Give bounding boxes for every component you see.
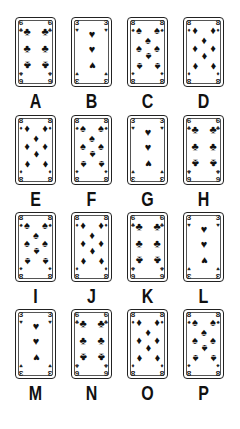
diamonds-pip-icon: ♦	[78, 256, 89, 267]
playing-card[interactable]: 8♦8♦8♦8♦♦♦♦♦♦♦♦♦	[15, 115, 56, 185]
card-label: B	[75, 90, 108, 112]
playing-card[interactable]: 6♣6♣6♣6♣♣♣♣♣♣♣	[127, 212, 168, 282]
card-rank: 3	[48, 310, 52, 319]
card-index-br: 8♦	[102, 266, 110, 280]
card-index-br: 3♥	[214, 266, 222, 280]
hearts-icon: ♥	[102, 27, 110, 33]
hearts-pip-icon: ♥	[31, 336, 42, 347]
card-index-br: 8♠	[46, 266, 54, 280]
hearts-icon: ♥	[102, 71, 110, 77]
card-index-br: 8♦	[46, 169, 54, 183]
playing-card[interactable]: 3♥3♥3♥3♥♥♥♥	[71, 17, 112, 87]
card-label: J	[75, 285, 108, 307]
spades-pip-icon: ♠	[152, 61, 163, 72]
card-index-bl: 8♦	[73, 266, 81, 280]
card-index-br: 3♥	[158, 169, 166, 183]
clubs-pip-icon: ♣	[190, 124, 201, 135]
card-cell-n: 6♣6♣6♣6♣♣♣♣♣♣♣N	[56, 309, 112, 407]
card-rank: 8	[131, 77, 135, 86]
hearts-icon: ♥	[158, 169, 166, 175]
card-label: A	[19, 90, 52, 112]
card-label: D	[187, 90, 220, 112]
clubs-pip-icon: ♣	[208, 124, 219, 135]
card-rank: 3	[160, 116, 164, 125]
card-cell-e: 8♦8♦8♦8♦♦♦♦♦♦♦♦♦E	[0, 115, 56, 213]
card-index-br: 8♠	[214, 363, 222, 377]
card-cell-k: 6♣6♣6♣6♣♣♣♣♣♣♣K	[112, 212, 168, 310]
playing-card[interactable]: 8♠8♠8♠8♠♠♠♠♠♠♠♠♠	[15, 212, 56, 282]
card-cell-j: 8♦8♦8♦8♦♦♦♦♦♦♦♦♦J	[56, 212, 112, 310]
card-rank: 8	[216, 77, 220, 86]
diamonds-pip-icon: ♦	[134, 353, 145, 364]
card-index-bl: 3♥	[17, 363, 25, 377]
card-cell-h: 6♣6♣6♣6♣♣♣♣♣♣♣H	[168, 115, 224, 213]
card-cell-i: 8♠8♠8♠8♠♠♠♠♠♠♠♠♠I	[0, 212, 56, 310]
card-label: P	[187, 382, 220, 404]
card-label: M	[19, 382, 52, 404]
playing-card[interactable]: 8♠8♠8♠8♠♠♠♠♠♠♠♠♠	[71, 115, 112, 185]
card-rank: 8	[187, 77, 191, 86]
spades-pip-icon: ♠	[190, 353, 201, 364]
playing-card[interactable]: 8♦8♦8♦8♦♦♦♦♦♦♦♦♦	[183, 17, 224, 87]
hearts-pip-icon: ♥	[199, 239, 210, 250]
hearts-pip-icon: ♥	[87, 29, 98, 40]
card-label: K	[131, 285, 164, 307]
hearts-icon: ♥	[129, 125, 137, 131]
playing-card[interactable]: 8♠8♠8♠8♠♠♠♠♠♠♠♠♠	[183, 309, 224, 379]
card-index-br: 8♦	[214, 71, 222, 85]
card-index-tr: 3♥	[46, 311, 54, 325]
card-index-bl: 8♠	[129, 71, 137, 85]
card-index-tl: 3♥	[129, 117, 137, 131]
card-rank: 8	[19, 175, 23, 184]
playing-card[interactable]: 3♥3♥3♥3♥♥♥♥	[15, 309, 56, 379]
hearts-icon: ♥	[17, 319, 25, 325]
card-index-tl: 3♥	[17, 311, 25, 325]
hearts-icon: ♥	[73, 71, 81, 77]
playing-card[interactable]: 6♣6♣6♣6♣♣♣♣♣♣♣	[15, 17, 56, 87]
card-cell-f: 8♠8♠8♠8♠♠♠♠♠♠♠♠♠F	[56, 115, 112, 213]
playing-card[interactable]: 8♦8♦8♦8♦♦♦♦♦♦♦♦♦	[71, 212, 112, 282]
playing-card[interactable]: 3♥3♥3♥3♥♥♥♥	[183, 212, 224, 282]
card-rank: 3	[48, 369, 52, 378]
hearts-icon: ♥	[214, 266, 222, 272]
card-rank: 8	[48, 272, 52, 281]
clubs-pip-icon: ♣	[96, 352, 107, 363]
card-label: F	[75, 188, 108, 210]
card-rank: 6	[216, 175, 220, 184]
card-rank: 3	[75, 18, 79, 27]
card-label: C	[131, 90, 164, 112]
clubs-pip-icon: ♣	[208, 158, 219, 169]
hearts-pip-icon: ♥	[87, 60, 98, 71]
card-label: H	[187, 188, 220, 210]
card-rank: 3	[19, 369, 23, 378]
card-rank: 8	[187, 369, 191, 378]
card-index-bl: 3♥	[129, 169, 137, 183]
hearts-pip-icon: ♥	[87, 44, 98, 55]
card-index-bl: 8♦	[185, 71, 193, 85]
playing-card[interactable]: 6♣6♣6♣6♣♣♣♣♣♣♣	[183, 115, 224, 185]
playing-card[interactable]: 8♦8♦8♦8♦♦♦♦♦♦♦♦♦	[127, 309, 168, 379]
playing-card[interactable]: 6♣6♣6♣6♣♣♣♣♣♣♣	[71, 309, 112, 379]
card-cell-g: 3♥3♥3♥3♥♥♥♥G	[112, 115, 168, 213]
card-cell-d: 8♦8♦8♦8♦♦♦♦♦♦♦♦♦D	[168, 17, 224, 115]
diamonds-pip-icon: ♦	[208, 61, 219, 72]
card-index-tr: 3♥	[214, 214, 222, 228]
card-index-br: 3♥	[46, 363, 54, 377]
card-index-bl: 6♣	[185, 169, 193, 183]
clubs-pip-icon: ♣	[40, 43, 51, 54]
hearts-icon: ♥	[158, 125, 166, 131]
card-index-bl: 6♣	[17, 71, 25, 85]
card-index-bl: 3♥	[185, 266, 193, 280]
hearts-pip-icon: ♥	[31, 352, 42, 363]
clubs-pip-icon: ♣	[152, 221, 163, 232]
hearts-icon: ♥	[185, 266, 193, 272]
card-rank: 6	[131, 272, 135, 281]
card-rank: 6	[104, 369, 108, 378]
diamonds-pip-icon: ♦	[22, 159, 33, 170]
playing-card[interactable]: 8♠8♠8♠8♠♠♠♠♠♠♠♠♠	[127, 17, 168, 87]
clubs-pip-icon: ♣	[78, 352, 89, 363]
playing-card[interactable]: 3♥3♥3♥3♥♥♥♥	[127, 115, 168, 185]
card-index-br: 6♣	[102, 363, 110, 377]
card-rank: 3	[216, 213, 220, 222]
card-rank: 8	[216, 369, 220, 378]
